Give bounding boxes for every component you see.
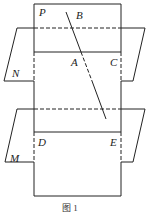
label-d: D	[37, 136, 46, 148]
label-n: N	[11, 67, 20, 79]
label-c: C	[110, 56, 118, 68]
label-m: M	[9, 152, 20, 164]
line-lower	[92, 81, 106, 119]
figure-caption: 图 1	[62, 203, 78, 213]
label-p: P	[38, 6, 46, 18]
label-b: B	[76, 9, 83, 21]
line-a-hidden	[81, 52, 92, 81]
geometry-figure: P B N A C M D E 图 1	[0, 0, 147, 213]
plane-p-bottom	[34, 162, 121, 196]
label-e: E	[109, 136, 117, 148]
plane-m	[5, 109, 145, 162]
label-a: A	[70, 56, 78, 68]
